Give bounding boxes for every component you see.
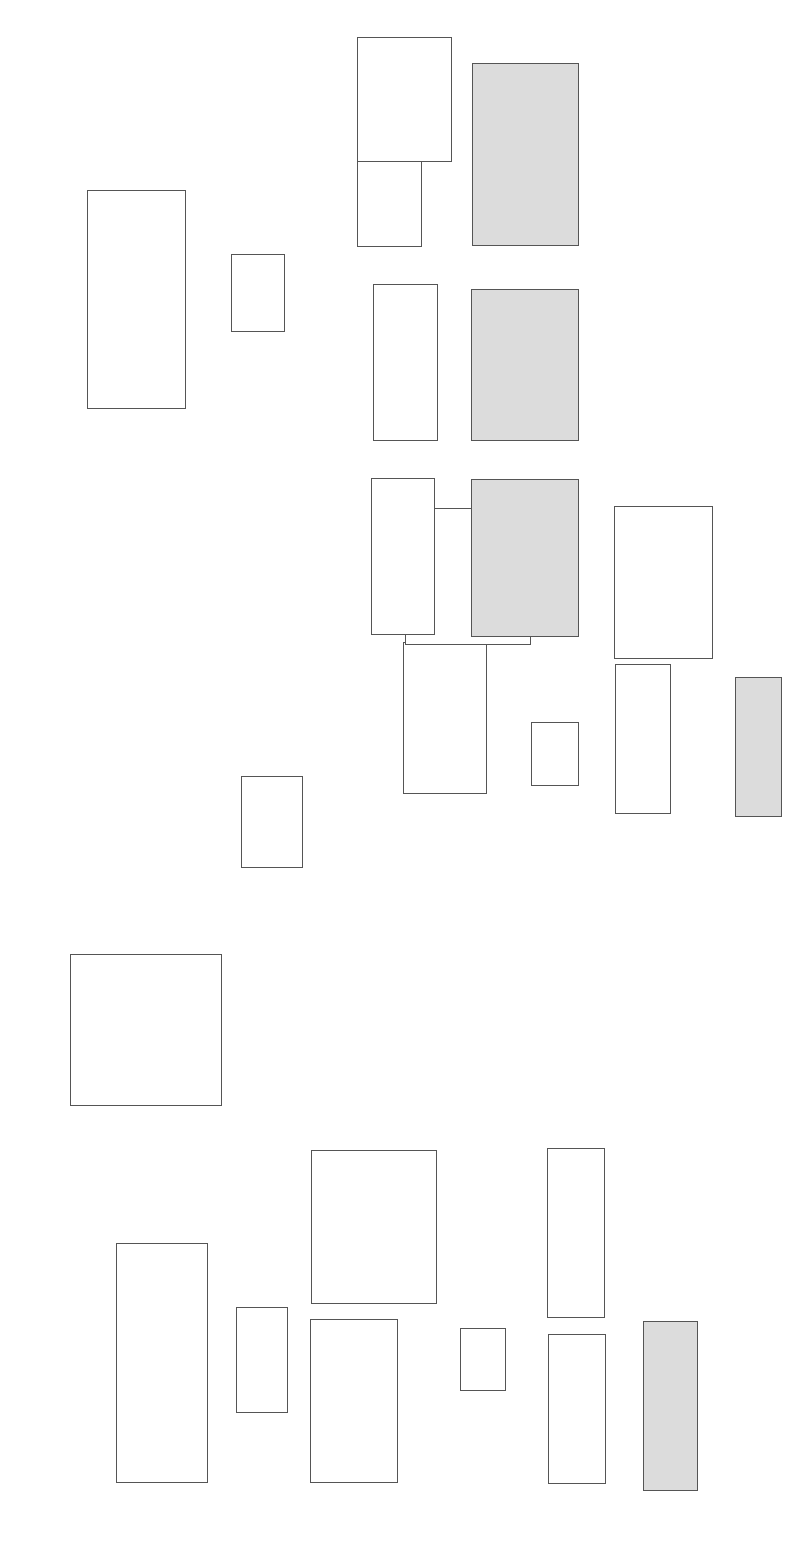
gs-normal-a-box <box>548 1334 606 1484</box>
section-b-box <box>70 954 222 1106</box>
crp-node <box>241 776 303 868</box>
lfabp-positive-box <box>311 1150 437 1304</box>
gs-normal-b-box <box>615 664 671 814</box>
gs-node-c <box>231 254 285 332</box>
pattern-heterogeneous-box <box>373 284 438 441</box>
h-hca-result <box>643 1321 698 1491</box>
result-beta-hca-s45 <box>471 289 579 441</box>
flowchart-canvas <box>0 0 799 1554</box>
section-c-box <box>87 190 186 409</box>
pattern-normal-box <box>357 37 452 162</box>
lfabp-negative-box <box>310 1319 398 1483</box>
lfabp-node <box>236 1307 288 1413</box>
result-beta-hca-ex78 <box>472 63 579 246</box>
gs-node-b <box>531 722 579 786</box>
gs-abnormal-b-box <box>614 506 713 659</box>
result-beta-hca-ex3 <box>471 479 579 637</box>
crp-positive-box <box>403 642 487 794</box>
pattern-homogeneous-box <box>371 478 435 635</box>
gs-node-a <box>460 1328 506 1391</box>
section-a-box <box>116 1243 208 1483</box>
gs-abnormal-a-box <box>547 1148 605 1318</box>
ihca-result <box>735 677 782 817</box>
